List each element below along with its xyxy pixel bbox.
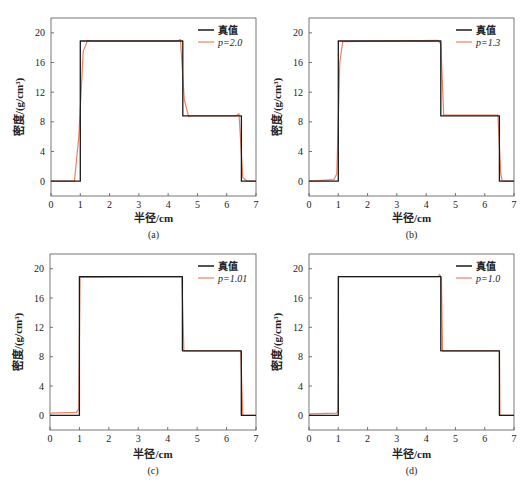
legend-label-true: 真值 [476, 260, 496, 272]
y-tick-label: 4 [40, 146, 45, 157]
x-tick-label: 0 [307, 199, 312, 210]
x-tick-label: 5 [195, 199, 200, 210]
true-value-line [50, 277, 256, 416]
x-tick-label: 4 [424, 433, 429, 444]
x-tick-label: 6 [224, 433, 229, 444]
y-tick-label: 0 [39, 410, 44, 421]
x-tick-label: 6 [482, 199, 487, 210]
x-tick-label: 7 [512, 199, 517, 210]
subplot-c: 01234567048121620真值p=1.01半径/cm密度/(g/cm³)… [11, 254, 259, 477]
x-tick-label: 2 [107, 199, 112, 210]
reconstruction-line [50, 277, 256, 416]
y-tick-label: 12 [293, 87, 303, 98]
x-tick-label: 0 [307, 433, 312, 444]
y-axis-label: 密度/(g/cm³) [270, 313, 284, 372]
legend-label-reconstruction: p=1.01 [217, 273, 247, 284]
x-tick-label: 4 [165, 433, 170, 444]
y-tick-label: 8 [39, 351, 44, 362]
y-tick-label: 8 [40, 116, 45, 127]
legend-label-true: 真值 [218, 24, 238, 36]
subplot-a: 01234567048121620真值p=2.0半径/cm密度/(g/cm³)(… [12, 18, 259, 241]
x-tick-label: 4 [166, 199, 171, 210]
true-value-line [51, 41, 256, 181]
y-tick-label: 0 [298, 176, 303, 187]
y-tick-label: 12 [293, 322, 303, 333]
x-tick-label: 6 [482, 433, 487, 444]
reconstruction-line [51, 40, 256, 182]
y-tick-label: 0 [298, 410, 303, 421]
x-tick-label: 5 [453, 199, 458, 210]
subplot-b: 01234567048121620真值p=1.3半径/cm密度/(g/cm³)(… [270, 18, 517, 241]
y-tick-label: 16 [293, 293, 303, 304]
legend-label-true: 真值 [476, 24, 496, 36]
x-tick-label: 5 [195, 433, 200, 444]
y-tick-label: 12 [35, 87, 45, 98]
legend-label-reconstruction: p=2.0 [217, 37, 242, 48]
x-axis-label: 半径/cm [392, 447, 431, 460]
x-tick-label: 6 [224, 199, 229, 210]
panel-caption: (b) [406, 229, 418, 241]
x-tick-label: 2 [365, 199, 370, 210]
x-tick-label: 3 [394, 199, 399, 210]
y-tick-label: 8 [298, 116, 303, 127]
legend-label-reconstruction: p=1.3 [475, 37, 500, 48]
x-tick-label: 2 [365, 433, 370, 444]
reconstruction-line [309, 275, 514, 416]
y-tick-label: 4 [298, 146, 303, 157]
x-tick-label: 4 [424, 199, 429, 210]
x-tick-label: 0 [49, 199, 54, 210]
x-tick-label: 3 [394, 433, 399, 444]
x-tick-label: 7 [254, 199, 259, 210]
subplot-d: 01234567048121620真值p=1.0半径/cm密度/(g/cm³)(… [270, 254, 517, 477]
x-tick-label: 3 [136, 433, 141, 444]
y-tick-label: 20 [293, 27, 303, 38]
x-axis-label: 半径/cm [133, 447, 172, 460]
figure: 01234567048121620真值p=2.0半径/cm密度/(g/cm³)(… [0, 0, 528, 492]
x-tick-label: 5 [453, 433, 458, 444]
panel-caption: (c) [147, 465, 158, 477]
x-tick-label: 2 [106, 433, 111, 444]
x-tick-label: 0 [48, 433, 53, 444]
y-tick-label: 4 [298, 381, 303, 392]
y-tick-label: 8 [298, 351, 303, 362]
y-tick-label: 0 [40, 176, 45, 187]
legend-label-true: 真值 [218, 260, 238, 272]
x-tick-label: 3 [136, 199, 141, 210]
y-axis-label: 密度/(g/cm³) [11, 313, 25, 372]
y-tick-label: 20 [293, 263, 303, 274]
x-tick-label: 1 [78, 199, 83, 210]
x-tick-label: 7 [254, 433, 259, 444]
y-tick-label: 16 [293, 57, 303, 68]
x-tick-label: 7 [512, 433, 517, 444]
y-tick-label: 16 [34, 293, 44, 304]
x-tick-label: 1 [336, 433, 341, 444]
true-value-line [309, 277, 514, 416]
panel-caption: (d) [406, 465, 418, 477]
x-axis-label: 半径/cm [134, 211, 173, 224]
panel-caption: (a) [148, 229, 159, 241]
y-tick-label: 4 [39, 381, 44, 392]
y-tick-label: 20 [35, 27, 45, 38]
y-tick-label: 12 [34, 322, 44, 333]
y-tick-label: 16 [35, 57, 45, 68]
reconstruction-line [309, 40, 514, 181]
y-axis-label: 密度/(g/cm³) [12, 78, 26, 137]
x-tick-label: 1 [336, 199, 341, 210]
y-axis-label: 密度/(g/cm³) [270, 78, 284, 137]
x-tick-label: 1 [77, 433, 82, 444]
x-axis-label: 半径/cm [392, 211, 431, 224]
y-tick-label: 20 [34, 263, 44, 274]
legend-label-reconstruction: p=1.0 [475, 273, 500, 284]
